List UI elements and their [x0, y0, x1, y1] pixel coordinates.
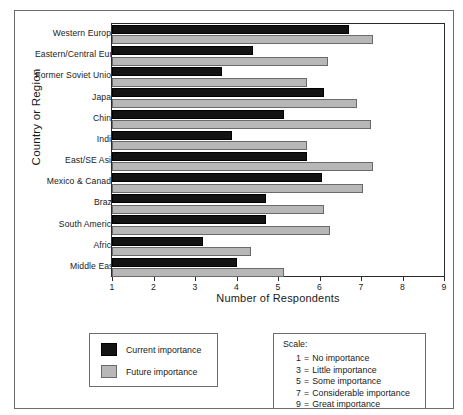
legend-label: Future importance [126, 367, 197, 377]
x-tick [320, 277, 321, 281]
bar-current [112, 194, 266, 203]
scale-title: Scale: [283, 339, 307, 349]
category-label: Former Soviet Union [35, 71, 116, 80]
bar-future [112, 57, 328, 66]
legend: Current importanceFuture importance [89, 333, 218, 387]
bars-container [112, 24, 444, 276]
x-axis-title: Number of Respondents [111, 292, 445, 304]
category-label: Brazil [35, 198, 116, 207]
bar-current [112, 46, 253, 55]
bar-current [112, 173, 322, 182]
scale-equals: = [301, 365, 312, 375]
scale-legend: Scale: 1=No importance3=Little importanc… [273, 333, 426, 409]
scale-label: Some importance [312, 376, 381, 386]
figure-frame: Country or Region Western EuropeEastern/… [14, 10, 454, 409]
chart-area: Country or Region Western EuropeEastern/… [15, 11, 455, 303]
scale-value: 3 [293, 365, 301, 375]
x-tick-label: 4 [229, 282, 245, 292]
bar-future [112, 205, 324, 214]
bar-future [112, 35, 373, 44]
scale-value: 7 [293, 388, 301, 398]
scale-entry: 9=Great importance [293, 399, 380, 409]
scale-entry: 1=No importance [293, 353, 369, 363]
bar-future [112, 247, 251, 256]
scale-label: No importance [312, 353, 369, 363]
x-tick [112, 277, 113, 281]
scale-label: Great importance [312, 399, 380, 409]
bar-future [112, 141, 307, 150]
bar-future [112, 99, 357, 108]
category-label: Japan [35, 93, 116, 102]
x-tick-label: 9 [436, 282, 452, 292]
bar-future [112, 120, 371, 129]
x-tick [444, 277, 445, 281]
category-label: South America [35, 220, 116, 229]
bar-future [112, 184, 363, 193]
x-tick-label: 6 [312, 282, 328, 292]
category-label: India [35, 135, 116, 144]
x-tick-label: 3 [187, 282, 203, 292]
x-tick-label: 2 [146, 282, 162, 292]
bar-future [112, 78, 307, 87]
scale-value: 1 [293, 353, 301, 363]
category-label: Eastern/Central Europe [35, 50, 116, 59]
scale-equals: = [301, 399, 312, 409]
category-label: Africa [35, 241, 116, 250]
bar-current [112, 110, 284, 119]
x-tick-label: 5 [270, 282, 286, 292]
category-axis-labels: Western EuropeEastern/Central EuropeForm… [35, 23, 116, 277]
category-label: China [35, 114, 116, 123]
x-tick [237, 277, 238, 281]
category-label: Middle East [35, 262, 116, 271]
x-tick [195, 277, 196, 281]
x-tick-label: 1 [104, 282, 120, 292]
x-tick [278, 277, 279, 281]
bar-current [112, 152, 307, 161]
bar-future [112, 162, 373, 171]
x-tick [361, 277, 362, 281]
legend-swatch-future [101, 365, 117, 378]
legend-item-current: Current importance [101, 343, 201, 356]
scale-value: 5 [293, 376, 301, 386]
scale-entry: 7=Considerable importance [293, 388, 410, 398]
bar-current [112, 88, 324, 97]
bar-current [112, 215, 266, 224]
scale-label: Considerable importance [312, 388, 410, 398]
legend-item-future: Future importance [101, 365, 197, 378]
scale-value: 9 [293, 399, 301, 409]
scale-label: Little importance [312, 365, 377, 375]
legend-swatch-current [101, 343, 117, 356]
category-label: East/SE Asia [35, 156, 116, 165]
bar-future [112, 268, 284, 277]
plot-box [111, 23, 445, 277]
legend-label: Current importance [126, 345, 201, 355]
scale-entry: 3=Little importance [293, 365, 377, 375]
x-tick [154, 277, 155, 281]
scale-equals: = [301, 388, 312, 398]
bar-current [112, 25, 349, 34]
scale-equals: = [301, 353, 312, 363]
x-tick-label: 7 [353, 282, 369, 292]
scale-entry: 5=Some importance [293, 376, 381, 386]
bar-future [112, 226, 330, 235]
bar-current [112, 258, 237, 267]
scale-equals: = [301, 376, 312, 386]
bar-current [112, 67, 222, 76]
bar-current [112, 131, 232, 140]
category-label: Western Europe [35, 29, 116, 38]
x-tick [403, 277, 404, 281]
x-tick-label: 8 [395, 282, 411, 292]
bar-current [112, 237, 203, 246]
category-label: Mexico & Canada [35, 177, 116, 186]
